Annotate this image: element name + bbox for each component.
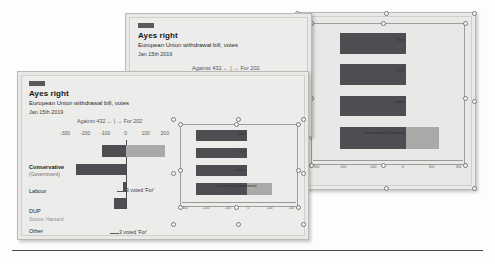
xtick--300: -300	[60, 130, 70, 136]
embedded-chart-object[interactable]: Other DUP Labour Conservative (Governmen…	[174, 120, 302, 223]
chart-xaxis: -300 -200 -100 0 100 200	[63, 130, 169, 138]
callout-leader-other	[110, 233, 119, 234]
front-document-window[interactable]: Ayes right European Union withdrawal bil…	[17, 71, 309, 240]
callout-other: 3 voted 'For'	[119, 229, 147, 235]
cat-label-labour: Labour	[29, 188, 46, 194]
outer-handle-e[interactable]	[301, 171, 306, 176]
xtick-200: 200	[456, 165, 462, 169]
resize-handle-se[interactable]	[296, 205, 301, 210]
page-date: Jan 15th 2019	[29, 109, 63, 115]
callout-leader-labour	[117, 191, 126, 192]
selection-frame-inner	[311, 23, 465, 165]
xtick--200: -200	[340, 165, 347, 169]
callout-labour: 3 voted 'For'	[126, 187, 154, 193]
outer-handle-ne[interactable]	[301, 117, 306, 122]
page-divider-rule	[12, 250, 483, 251]
selected-chart-surface: Other DUP Labour Conservative (Governmen…	[300, 16, 472, 186]
bar-labour-against	[76, 164, 126, 175]
axis-annotation: Against 432 ← | → For 202	[77, 118, 142, 124]
outer-handle-sw[interactable]	[171, 222, 176, 227]
cat-label-conservative: Conservative (Government)	[29, 164, 64, 178]
outer-handle-ne[interactable]	[472, 11, 477, 16]
front-document-surface: Ayes right European Union withdrawal bil…	[21, 75, 305, 236]
outer-handle-n[interactable]	[236, 117, 241, 122]
bar-conservative-for	[126, 145, 165, 157]
resize-handle-n[interactable]	[381, 21, 386, 26]
resize-handle-sw[interactable]	[309, 163, 314, 168]
resize-handle-e[interactable]	[296, 168, 301, 173]
xtick-100: 100	[142, 130, 150, 136]
selected-chart-window[interactable]: Other DUP Labour Conservative (Governmen…	[296, 12, 476, 190]
resize-handle-ne[interactable]	[463, 21, 468, 26]
outer-handle-w[interactable]	[171, 171, 176, 176]
outer-handle-s[interactable]	[236, 222, 241, 227]
source-note: Source: Hansard	[29, 217, 63, 222]
brand-badge	[138, 23, 154, 28]
xtick-200: 200	[161, 130, 169, 136]
bar-conservative-against	[102, 145, 125, 157]
brand-badge	[29, 81, 45, 86]
cat-label-other: Other	[29, 228, 43, 234]
page-subtitle: European Union withdrawal bill, votes	[29, 100, 129, 106]
outer-handle-e[interactable]	[472, 99, 477, 104]
screen-canvas: Other DUP Labour Conservative (Governmen…	[0, 0, 495, 264]
outer-handle-se[interactable]	[472, 186, 477, 191]
chart-plot-area	[63, 140, 169, 213]
page-date: Jan 15th 2019	[138, 51, 172, 57]
outer-handle-nw[interactable]	[171, 117, 176, 122]
xtick--100: -100	[100, 130, 110, 136]
xtick--100: -100	[370, 165, 377, 169]
main-chart: Against 432 ← | → For 202 -300 -200 -100…	[29, 118, 169, 213]
resize-handle-se[interactable]	[463, 163, 468, 168]
page-title: Ayes right	[138, 31, 178, 40]
page-subtitle: European Union withdrawal bill, votes	[138, 42, 238, 48]
outer-handle-n[interactable]	[384, 11, 389, 16]
resize-handle-n[interactable]	[234, 122, 239, 127]
outer-handle-se[interactable]	[301, 222, 306, 227]
resize-handle-ne[interactable]	[296, 122, 301, 127]
cat-label-dup: DUP	[29, 208, 41, 214]
resize-handle-s[interactable]	[381, 163, 386, 168]
resize-handle-s[interactable]	[234, 205, 239, 210]
embedded-chart-xaxis: -300 -200 -100 0 100 200	[182, 206, 296, 215]
selection-frame-inner	[180, 124, 298, 207]
resize-handle-w[interactable]	[178, 168, 183, 173]
xtick--200: -200	[80, 130, 90, 136]
resize-handle-e[interactable]	[463, 96, 468, 101]
cat-label-conservative-sub: (Government)	[29, 171, 64, 178]
xtick-100: 100	[429, 165, 435, 169]
resize-handle-sw[interactable]	[178, 205, 183, 210]
bar-other-against	[114, 198, 126, 209]
xtick-0: 0	[402, 165, 404, 169]
outer-handle-s[interactable]	[384, 186, 389, 191]
cat-label-conservative-main: Conservative	[29, 164, 64, 170]
selected-chart-xaxis: -300 -200 -100 0 100 200	[313, 165, 463, 175]
page-title: Ayes right	[29, 89, 69, 98]
xtick-0: 0	[124, 130, 127, 136]
resize-handle-nw[interactable]	[178, 122, 183, 127]
xtick--300: -300	[313, 165, 320, 169]
